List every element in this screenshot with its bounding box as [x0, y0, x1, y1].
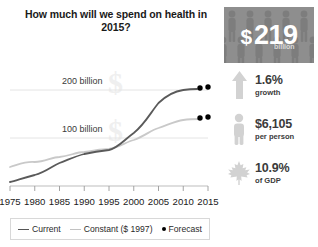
stat-row-growth: 1.6% growth [224, 63, 314, 107]
legend-line-dark-icon [18, 229, 29, 230]
up-arrow-icon [224, 65, 254, 105]
stat-row-gdp: 10.9% of GDP [224, 151, 314, 195]
legend-line-light-icon [70, 229, 81, 230]
stat-caption-gdp: of GDP [255, 176, 314, 185]
person-icon [224, 109, 254, 149]
chart-legend: Current Constant ($ 1997) Forecast [10, 218, 210, 240]
maple-leaf-icon [224, 153, 254, 193]
stat-caption-growth: growth [255, 88, 314, 97]
series-line-current [10, 89, 197, 182]
x-axis-labels: 1975 1980 1985 1990 1995 2000 2005 2010 … [0, 196, 218, 212]
x-tick-2015: 2015 [195, 196, 221, 207]
stats-sidebar: $ 219 billion 1.6% growth $6,105 [224, 7, 314, 197]
stat-row-per-person: $6,105 per person [224, 107, 314, 151]
legend-item-current[interactable]: Current [18, 224, 61, 234]
x-tick-2010: 2010 [170, 196, 196, 207]
chart-plot-area: $ $ [0, 44, 218, 196]
x-tick-2005: 2005 [146, 196, 172, 207]
forecast-dots-constant [197, 114, 210, 120]
hero-unit-label: billion [274, 43, 295, 50]
series-line-constant [10, 119, 200, 167]
legend-item-constant[interactable]: Constant ($ 1997) [70, 224, 153, 234]
hero-currency-symbol: $ [240, 26, 252, 47]
page-title: How much will we spend on health in 2015… [18, 8, 214, 34]
legend-label-constant: Constant ($ 1997) [84, 224, 153, 234]
legend-item-forecast[interactable]: Forecast [162, 224, 202, 234]
stat-hero-block: $ 219 billion [224, 7, 314, 63]
stat-value-gdp: 10.9% [255, 162, 314, 175]
x-tick-1990: 1990 [71, 196, 97, 207]
x-tick-1985: 1985 [47, 196, 73, 207]
x-tick-2000: 2000 [121, 196, 147, 207]
gridline-label-100: 100 billion [62, 124, 103, 134]
stat-value-growth: 1.6% [255, 74, 314, 87]
x-axis-ticks [10, 186, 208, 191]
line-chart-svg [0, 44, 218, 196]
x-tick-1995: 1995 [96, 196, 122, 207]
gridline-label-200: 200 billion [62, 76, 103, 86]
legend-label-forecast: Forecast [169, 224, 202, 234]
x-tick-1975: 1975 [0, 196, 23, 207]
legend-label-current: Current [32, 224, 61, 234]
stat-caption-per-person: per person [255, 132, 314, 141]
legend-dot-icon [162, 227, 166, 231]
stat-value-per-person: $6,105 [255, 118, 314, 131]
x-tick-1980: 1980 [22, 196, 48, 207]
